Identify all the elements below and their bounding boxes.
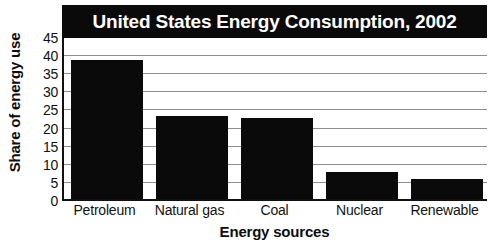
y-axis-tick-label: 25 [28,103,58,117]
plot-frame: United States Energy Consumption, 2002 [62,5,487,201]
y-axis-tick-label: 5 [28,176,58,190]
x-axis-line [64,199,487,201]
y-axis-tick-label: 10 [28,158,58,172]
y-axis-tick-labels: 051015202530354045 [28,22,58,202]
bar [241,118,313,201]
plot-area [62,38,487,201]
bar-chart-figure: Share of energy use 051015202530354045 U… [0,0,491,244]
x-axis-tick-labels: PetroleumNatural gasCoalNuclearRenewable [62,202,487,222]
y-axis-tick-label: 0 [28,194,58,208]
y-axis-tick-label: 15 [28,140,58,154]
y-axis-title: Share of energy use [0,0,30,205]
x-axis-tick-label: Coal [232,202,317,218]
bar [411,179,483,201]
y-axis-tick-label: 45 [28,31,58,45]
x-axis-title: Energy sources [62,223,487,240]
y-axis-title-text: Share of energy use [7,33,24,173]
y-axis-tick-label: 30 [28,85,58,99]
x-axis-tick-label: Renewable [402,202,487,218]
bar [71,60,143,201]
x-axis-tick-label: Petroleum [62,202,147,218]
y-axis-tick-label: 40 [28,49,58,63]
chart-title-text: United States Energy Consumption, 2002 [92,11,456,33]
y-axis-tick-label: 35 [28,67,58,81]
x-axis-tick-label: Nuclear [317,202,402,218]
chart-title-banner: United States Energy Consumption, 2002 [62,5,487,38]
bar [326,172,398,201]
bar-series [64,38,487,201]
y-axis-tick-label: 20 [28,122,58,136]
x-axis-tick-label: Natural gas [147,202,232,218]
bar [156,116,228,201]
